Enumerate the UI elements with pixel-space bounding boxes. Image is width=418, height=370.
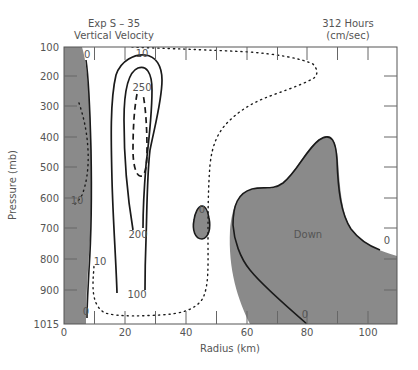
y-tick-900: 900 (40, 285, 59, 296)
contour-plot: 0 20 40 60 80 100 100 200 300 400 500 60… (0, 0, 418, 370)
x-tick-20: 20 (119, 327, 132, 338)
contour-label-0-cell: 0 (199, 204, 205, 215)
x-tick-40: 40 (180, 327, 193, 338)
contour-label-0-top: 0 (84, 49, 90, 60)
y-tick-300: 300 (40, 101, 59, 112)
contour-label-0-right: 0 (384, 235, 390, 246)
contour-label-200: 200 (128, 229, 147, 240)
y-tick-500: 500 (40, 162, 59, 173)
downdraft-region-axis (64, 47, 92, 324)
x-tick-0: 0 (61, 327, 67, 338)
contour-label-100: 100 (127, 289, 146, 300)
x-tick-labels: 0 20 40 60 80 100 (61, 327, 378, 338)
y-tick-600: 600 (40, 193, 59, 204)
contour-label-0-axis-bottom: 0 (83, 306, 89, 317)
x-tick-80: 80 (301, 327, 314, 338)
y-tick-100: 100 (40, 42, 59, 53)
contour-label-0-bottom: 0 (302, 309, 308, 320)
x-tick-60: 60 (241, 327, 254, 338)
y-tick-700: 700 (40, 223, 59, 234)
contour-label-10-left: 10 (71, 195, 84, 206)
y-tick-800: 800 (40, 254, 59, 265)
contour-label-250: 250 (132, 82, 151, 93)
down-region-label: Down (294, 229, 322, 240)
y-tick-400: 400 (40, 132, 59, 143)
contour-label-10-low: 10 (94, 256, 107, 267)
x-tick-100: 100 (358, 327, 377, 338)
x-axis-title: Radius (km) (200, 343, 260, 354)
y-axis-title: Pressure (mb) (7, 150, 18, 220)
contour-250 (133, 94, 147, 176)
y-tick-200: 200 (40, 71, 59, 82)
contour-label-10-top: 10 (136, 48, 149, 59)
y-tick-labels: 100 200 300 400 500 600 700 800 900 1015 (34, 42, 59, 330)
y-tick-1015: 1015 (34, 319, 59, 330)
